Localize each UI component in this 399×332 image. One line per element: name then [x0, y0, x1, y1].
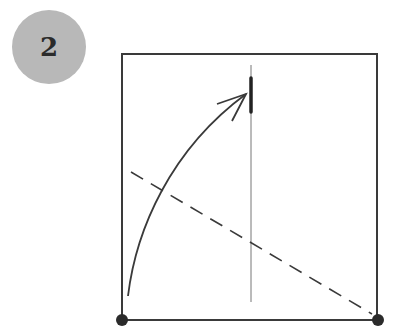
corner-dot-bottom-left — [116, 314, 128, 326]
corner-dot-bottom-right — [372, 314, 384, 326]
fold-arrow-curve — [128, 94, 246, 296]
fold-diagram — [0, 0, 399, 332]
